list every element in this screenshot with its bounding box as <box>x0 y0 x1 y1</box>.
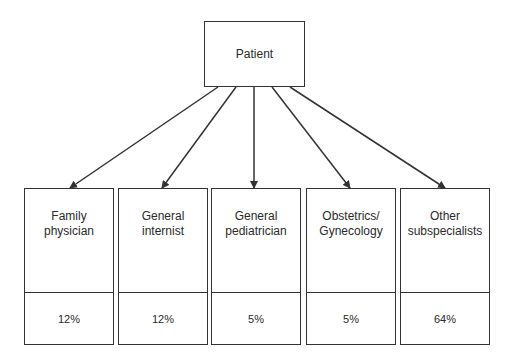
category-obstetrics-gynecology: Obstetrics/ Gynecology 5% <box>306 188 396 345</box>
category-label: Obstetrics/ Gynecology <box>307 189 395 293</box>
arrow-to-family-physician <box>70 87 218 188</box>
category-percent: 12% <box>119 293 207 344</box>
category-percent: 64% <box>401 293 489 344</box>
patient-node: Patient <box>204 21 305 87</box>
category-general-pediatrician: General pediatrician 5% <box>211 188 301 345</box>
category-percent: 12% <box>25 293 113 344</box>
arrow-to-general-internist <box>162 87 236 188</box>
patient-label: Patient <box>236 47 273 61</box>
category-other-subspecialists: Other subspecialists 64% <box>400 188 490 345</box>
category-label: Family physician <box>25 189 113 293</box>
category-label: General pediatrician <box>212 189 300 293</box>
arrow-to-obstetrics-gynecology <box>272 87 350 188</box>
category-general-internist: General internist 12% <box>118 188 208 345</box>
category-label: Other subspecialists <box>401 189 489 293</box>
arrow-to-other-subspecialists <box>290 87 445 188</box>
category-percent: 5% <box>212 293 300 344</box>
category-percent: 5% <box>307 293 395 344</box>
category-label: General internist <box>119 189 207 293</box>
category-family-physician: Family physician 12% <box>24 188 114 345</box>
